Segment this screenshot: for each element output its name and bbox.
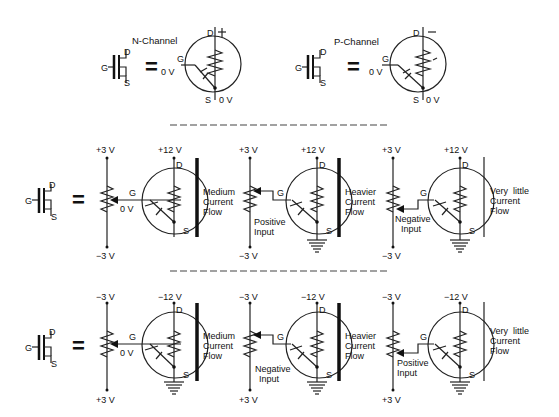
input-label-2: Input <box>254 227 275 237</box>
drain-voltage: +12 V <box>444 145 468 155</box>
flow-label-3: Flow <box>203 351 223 361</box>
source-voltage: 0 V <box>219 95 233 105</box>
gate-label: G <box>25 343 32 353</box>
drain-label: D <box>207 28 214 38</box>
pot-bottom-voltage: +3 V <box>382 395 401 405</box>
row2-symbol: G D S <box>25 327 57 369</box>
gate-voltage: 0 V <box>161 67 175 77</box>
pot-top-voltage: −3 V <box>382 292 401 302</box>
equals-sign: = <box>72 187 85 212</box>
n-channel-symbol: G D S <box>101 47 131 88</box>
flow-label-1: Medium <box>203 187 235 197</box>
gate-label: G <box>129 332 136 342</box>
row1-circuit-medium: +3 V −3 V +12 V D G 0 V S Medium Current… <box>96 145 235 261</box>
drain-label: D <box>124 47 131 57</box>
drain-label: D <box>176 160 183 170</box>
pot-top-voltage: +3 V <box>382 145 401 155</box>
source-label: S <box>326 226 332 236</box>
drain-label: D <box>319 305 326 315</box>
flow-label-1: Medium <box>203 331 235 341</box>
flow-label-1: Very little <box>490 186 529 196</box>
source-label: S <box>183 226 189 236</box>
p-channel-model: D G 0 V S 0 V <box>369 27 446 105</box>
flow-label-2: Current <box>490 196 521 206</box>
flow-label-2: Current <box>345 341 376 351</box>
flow-label-3: Flow <box>490 346 510 356</box>
flow-label-2: Current <box>345 197 376 207</box>
source-label: S <box>469 226 475 236</box>
drain-label: D <box>49 180 56 190</box>
gate-label: G <box>277 332 284 342</box>
input-label-2: Input <box>259 374 280 384</box>
flow-label-2: Current <box>490 336 521 346</box>
equals-sign: = <box>347 54 360 79</box>
input-label-2: Input <box>401 224 422 234</box>
drain-label: D <box>176 305 183 315</box>
drain-voltage: +12 V <box>158 145 182 155</box>
flow-label-3: Flow <box>490 206 510 216</box>
source-label: S <box>469 370 475 380</box>
pot-top-voltage: +3 V <box>239 145 258 155</box>
gate-label: G <box>295 63 302 73</box>
row2-circuit-medium: −3 V +3 V −12 V D G 0 V S Medium Current… <box>96 292 235 405</box>
gate-voltage: 0 V <box>120 348 134 358</box>
mosfet-diagram: G D S = N-Channel D G 0 V S 0 V G D S = … <box>0 0 559 417</box>
drain-voltage: −12 V <box>444 292 468 302</box>
pot-bottom-voltage: −3 V <box>239 251 258 261</box>
row1-symbol: G D S <box>25 180 57 222</box>
flow-label-1: Heavier <box>345 187 376 197</box>
equals-sign: = <box>72 333 85 358</box>
row1-circuit-very-little: +3 V −3 V +12 V D G S Negative Input Ver… <box>382 145 529 261</box>
input-label-1: Negative <box>255 364 291 374</box>
flow-label-2: Current <box>203 197 234 207</box>
gate-label: G <box>420 188 427 198</box>
source-label: S <box>205 95 211 105</box>
gate-label: G <box>177 54 184 64</box>
flow-label-2: Current <box>203 341 234 351</box>
drain-voltage: −12 V <box>158 292 182 302</box>
gate-label: G <box>420 332 427 342</box>
source-voltage: 0 V <box>426 95 440 105</box>
input-label-2: Input <box>397 368 418 378</box>
drain-label: D <box>49 327 56 337</box>
gate-label: G <box>129 188 136 198</box>
pot-top-voltage: +3 V <box>96 145 115 155</box>
pot-bottom-voltage: +3 V <box>96 395 115 405</box>
flow-label-3: Flow <box>203 207 223 217</box>
gate-label: G <box>25 196 32 206</box>
row1-circuit-heavier: +3 V −3 V +12 V D G S Positive Input Hea… <box>239 145 376 261</box>
source-label: S <box>51 359 57 369</box>
drain-label: D <box>319 160 326 170</box>
gate-label: G <box>277 188 284 198</box>
gate-label: G <box>101 63 108 73</box>
source-label: S <box>124 78 130 88</box>
pot-bottom-voltage: −3 V <box>382 251 401 261</box>
gate-voltage: 0 V <box>369 67 383 77</box>
drain-voltage: −12 V <box>301 292 325 302</box>
gate-voltage: 0 V <box>120 204 134 214</box>
pot-top-voltage: −3 V <box>239 292 258 302</box>
drain-label: D <box>462 305 469 315</box>
drain-label: D <box>320 47 327 57</box>
flow-label-3: Flow <box>345 351 365 361</box>
source-label: S <box>413 95 419 105</box>
flow-label-1: Heavier <box>345 331 376 341</box>
n-channel-title: N-Channel <box>132 35 177 46</box>
gate-label: G <box>382 54 389 64</box>
input-label-1: Positive <box>397 358 429 368</box>
input-label-1: Positive <box>254 217 286 227</box>
source-label: S <box>51 212 57 222</box>
row2-circuit-very-little: −3 V +3 V −12 V D G S Positive Input Ver… <box>382 292 529 405</box>
pot-bottom-voltage: −3 V <box>96 251 115 261</box>
drain-label: D <box>462 160 469 170</box>
source-label: S <box>326 370 332 380</box>
drain-voltage: +12 V <box>301 145 325 155</box>
source-label: S <box>320 78 326 88</box>
pot-top-voltage: −3 V <box>96 292 115 302</box>
source-label: S <box>183 370 189 380</box>
drain-label: D <box>413 28 420 38</box>
flow-label-3: Flow <box>345 207 365 217</box>
row2-circuit-heavier: −3 V +3 V −12 V D G S Negative Input Hea… <box>239 292 376 405</box>
pot-bottom-voltage: +3 V <box>239 395 258 405</box>
p-channel-symbol: G D S <box>295 47 327 88</box>
